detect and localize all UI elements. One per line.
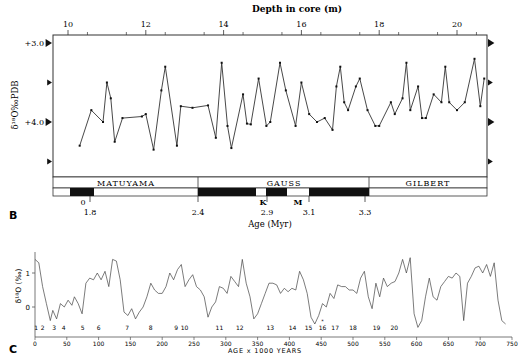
- isotope-stage-label: 17: [331, 324, 339, 331]
- age-tick-1.8: 1.8: [84, 208, 97, 217]
- delta18o-age-line: [35, 258, 506, 328]
- chron-gilbert: GILBERT: [406, 179, 451, 188]
- x-tick-label-c: 550: [379, 340, 391, 347]
- isotope-stage-label: 6: [97, 324, 101, 331]
- y-tick-label-b: +4.0: [25, 118, 44, 127]
- depth-tick-label: 18: [374, 20, 384, 29]
- left-tick-arrow: [47, 80, 52, 86]
- x-tick-label-c: 700: [474, 340, 486, 347]
- age-tick-3.3: 3.3: [359, 208, 372, 217]
- isotope-stage-label: 10: [181, 324, 189, 331]
- x-tick-label-c: 350: [252, 340, 264, 347]
- depth-tick-label: 20: [452, 20, 462, 29]
- panel-label-c: C: [9, 343, 17, 356]
- isotope-stage-label: 14: [289, 324, 297, 331]
- age-tick-2.9: 2.9: [261, 208, 274, 217]
- isotope-stage-label: 16: [319, 324, 327, 331]
- isotope-stage-label: 18: [349, 324, 357, 331]
- isotope-stage-label: 20: [391, 324, 399, 331]
- normal-polarity-olduvai: [70, 188, 94, 196]
- isotope-stage-label: 8: [149, 324, 153, 331]
- panel-c: 1 0 δ¹⁸O (‰) 050100150200250300350400450…: [9, 252, 518, 356]
- left-tick-arrow: [46, 118, 52, 126]
- right-tick-arrow: [488, 159, 493, 165]
- isotope-stage-labels: 1234567891011121314151617181920*: [34, 318, 398, 331]
- isotope-stage-label: 13: [266, 324, 274, 331]
- y-axis-title-b: δ¹⁸O‰PDB: [10, 80, 20, 129]
- y-axis-ticks-b: +3.0+4.0: [25, 39, 495, 165]
- isotope-stage-label: 1: [34, 324, 38, 331]
- x-axis-ticks-c: 0501001502002503003504004505005506006507…: [33, 337, 518, 347]
- chron-gauss: GAUSS: [267, 179, 302, 188]
- depth-tick-label: 16: [296, 20, 306, 29]
- isotope-stage-label: 5: [81, 324, 85, 331]
- normal-polarity-gauss-1: [198, 188, 256, 196]
- x-tick-label-c: 500: [347, 340, 359, 347]
- plot-frame-b: [53, 35, 487, 177]
- left-tick-arrow: [46, 39, 52, 47]
- x-tick-label-c: 250: [188, 340, 200, 347]
- depth-axis-ticks: 101214161820: [63, 20, 477, 35]
- x-tick-label-c: 650: [443, 340, 455, 347]
- chron-matuyama: MATUYAMA: [97, 179, 155, 188]
- panel-b: Depth in core (m) 101214161820 +3.0+4.0 …: [9, 4, 494, 229]
- isotope-stage-label: 2: [41, 324, 45, 331]
- left-tick-arrow: [47, 159, 52, 165]
- normal-polarity-gauss-2: [266, 188, 287, 196]
- y-tick-c-1: 1: [26, 270, 30, 278]
- isotope-stage-label: 19: [373, 324, 381, 331]
- event-mammoth-label: M: [294, 197, 303, 207]
- x-tick-label-c: 50: [63, 340, 71, 347]
- y-tick-c-0: 0: [26, 304, 30, 312]
- right-tick-arrow: [488, 118, 494, 126]
- age-tick-2.4: 2.4: [192, 208, 205, 217]
- isotope-stage-label: 3: [52, 324, 56, 331]
- x-tick-label-c: 0: [33, 340, 37, 347]
- figure-canvas: Depth in core (m) 101214161820 +3.0+4.0 …: [0, 0, 519, 363]
- x-axis-title-c: AGE x 1000 YEARS: [228, 347, 302, 355]
- x-tick-label-c: 750: [506, 340, 518, 347]
- age-axis-ticks: 0 K M 1.8 2.4 2.9 3.1 3.3: [80, 196, 371, 217]
- x-tick-label-c: 400: [284, 340, 296, 347]
- isotope-stage-label: 4: [62, 324, 66, 331]
- x-tick-label-c: 150: [125, 340, 137, 347]
- event-olduvai-label: 0: [80, 198, 85, 207]
- depth-axis-title: Depth in core (m): [252, 4, 342, 14]
- x-tick-label-c: 300: [220, 340, 232, 347]
- panel-label-b: B: [9, 209, 17, 222]
- right-tick-arrow: [488, 39, 494, 47]
- isotope-stage-label: 15: [305, 324, 313, 331]
- age-axis-title: Age (Myr): [247, 219, 292, 229]
- depth-tick-label: 12: [141, 20, 151, 29]
- x-tick-label-c: 450: [315, 340, 327, 347]
- delta18o-depth-line: [80, 59, 485, 150]
- x-tick-label-c: 100: [93, 340, 105, 347]
- y-axis-title-c: δ¹⁸O (‰): [14, 269, 23, 304]
- normal-polarity-gauss-3: [309, 188, 369, 196]
- right-tick-arrow: [488, 80, 493, 86]
- depth-tick-label: 14: [219, 20, 229, 29]
- age-tick-3.1: 3.1: [303, 208, 316, 217]
- magnetostratigraphy-bar: MATUYAMA GAUSS GILBERT: [53, 177, 487, 196]
- isotope-stage-label: 11: [216, 324, 224, 331]
- isotope-stage-label: 12: [236, 324, 244, 331]
- event-kaena-label: K: [260, 197, 268, 207]
- x-tick-label-c: 200: [156, 340, 168, 347]
- depth-tick-label: 10: [63, 20, 73, 29]
- isotope-stage-label: 7: [125, 324, 129, 331]
- x-tick-label-c: 600: [411, 340, 423, 347]
- isotope-stage-label: 9: [174, 324, 178, 331]
- y-tick-label-b: +3.0: [25, 39, 44, 48]
